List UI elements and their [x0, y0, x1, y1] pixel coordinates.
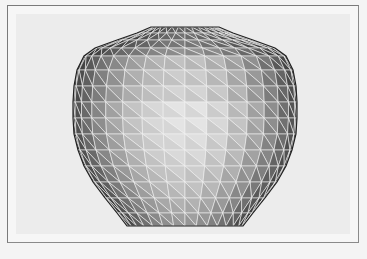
mesh-faces: [73, 27, 297, 226]
vase-mesh-render: [0, 0, 367, 259]
